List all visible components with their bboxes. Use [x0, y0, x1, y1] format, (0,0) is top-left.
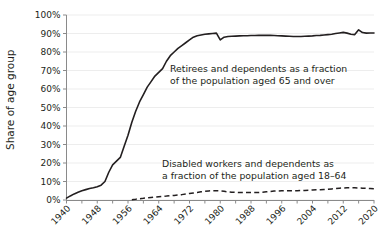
- x-axis-tick-labels: 1940194819561964197219801988199620042012…: [49, 203, 380, 226]
- disabled-annotation-line2: a fraction of the population aged 18–64: [162, 170, 346, 181]
- y-axis-tick-label: 30%: [40, 140, 60, 150]
- x-axis-tick-label: 2004: [295, 203, 318, 226]
- y-axis-tick-labels: 0%10%20%30%40%50%60%70%80%90%100%: [35, 10, 61, 205]
- y-axis-tick-label: 100%: [35, 10, 61, 20]
- x-axis-tick-label: 2012: [326, 203, 349, 226]
- retirees-annotation: Retirees and dependents as a fraction of…: [170, 63, 347, 86]
- y-axis-tick-label: 90%: [40, 29, 60, 39]
- y-axis-tick-label: 80%: [40, 47, 60, 57]
- x-axis-tick-label: 1948: [80, 203, 103, 226]
- x-axis-tick-label: 2020: [357, 203, 380, 226]
- chart-canvas: 0%10%20%30%40%50%60%70%80%90%100% 194019…: [0, 0, 381, 241]
- x-axis-tick-label: 1964: [141, 203, 164, 226]
- disabled-annotation: Disabled workers and dependents as a fra…: [162, 158, 346, 181]
- chart-container: 0%10%20%30%40%50%60%70%80%90%100% 194019…: [0, 0, 381, 241]
- series-disabled-line: [132, 188, 374, 200]
- y-axis-tick-label: 70%: [40, 66, 60, 76]
- y-axis-tick-label: 40%: [40, 121, 60, 131]
- y-axis-tick-label: 0%: [46, 195, 61, 205]
- y-axis-title: Share of age group: [4, 49, 16, 150]
- y-axis-tick-label: 60%: [40, 84, 60, 94]
- x-axis-tick-label: 1988: [234, 203, 257, 226]
- x-axis-tick-label: 1956: [111, 203, 134, 226]
- disabled-annotation-line1: Disabled workers and dependents as: [162, 158, 334, 169]
- y-axis-ticks: [63, 15, 67, 200]
- y-axis-tick-label: 50%: [40, 103, 60, 113]
- x-axis-ticks: [67, 200, 375, 204]
- y-axis-tick-label: 10%: [40, 177, 60, 187]
- retirees-annotation-line1: Retirees and dependents as a fraction: [170, 63, 347, 74]
- y-axis-tick-label: 20%: [40, 158, 60, 168]
- retirees-annotation-line2: of the population aged 65 and over: [170, 75, 335, 86]
- x-axis-tick-label: 1940: [49, 203, 72, 226]
- x-axis-tick-label: 1996: [264, 203, 287, 226]
- x-axis-tick-label: 1980: [203, 203, 226, 226]
- x-axis-tick-label: 1972: [172, 203, 195, 226]
